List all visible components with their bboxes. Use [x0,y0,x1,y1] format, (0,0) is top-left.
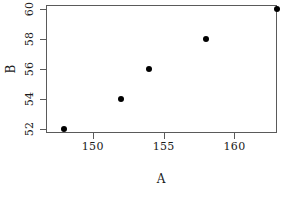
y-tick-mark [40,129,46,130]
x-tick-label: 150 [73,141,113,153]
data-point [146,66,152,72]
y-tick-label: 56 [24,61,36,77]
data-point [203,36,209,42]
y-tick-label: 60 [24,1,36,17]
x-tick-mark [234,133,235,139]
y-tick-mark [40,9,46,10]
x-axis-title: A [0,172,284,186]
scatter-plot-figure: 150155160 5254565860 A B [0,0,284,200]
x-tick-mark [164,133,165,139]
data-point [61,126,67,132]
x-axis-title-text: A [157,172,166,186]
x-tick-label: 155 [144,141,184,153]
y-tick-mark [40,69,46,70]
data-point [118,96,124,102]
y-tick-label: 54 [24,91,36,107]
x-tick-mark [93,133,94,139]
y-axis-title: B [4,60,18,78]
data-point [274,6,280,12]
y-tick-mark [40,99,46,100]
y-tick-label: 52 [24,121,36,137]
plot-data-area [46,5,277,133]
x-tick-label: 160 [214,141,254,153]
y-tick-label: 58 [24,31,36,47]
y-tick-mark [40,39,46,40]
